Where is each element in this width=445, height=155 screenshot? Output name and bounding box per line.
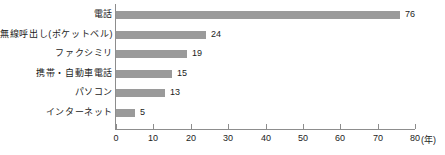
x-axis-unit-label: (年) [421, 133, 436, 146]
x-tick-label: 20 [186, 133, 196, 143]
bar [116, 50, 187, 58]
value-label: 24 [211, 25, 221, 44]
x-tick-label: 40 [261, 133, 271, 143]
chart-row: インターネット5 [0, 103, 445, 122]
x-tick-mark [378, 124, 379, 129]
x-tick-label: 80 [410, 133, 420, 143]
x-tick-label: 60 [335, 133, 345, 143]
category-label: 無線呼出し(ポケットベル) [0, 25, 113, 44]
y-axis-line [115, 4, 116, 129]
x-tick-mark [303, 124, 304, 129]
x-tick-label: 30 [223, 133, 233, 143]
category-label: インターネット [46, 103, 113, 122]
chart-row: 電話76 [0, 5, 445, 24]
bar [116, 109, 135, 117]
value-label: 15 [177, 64, 187, 83]
bar [116, 31, 206, 39]
chart-row: パソコン13 [0, 83, 445, 102]
category-label: ファクシミリ [55, 44, 113, 63]
x-tick-mark [153, 124, 154, 129]
bar [116, 89, 165, 97]
chart-row: ファクシミリ19 [0, 44, 445, 63]
x-tick-mark [228, 124, 229, 129]
value-label: 19 [192, 44, 202, 63]
x-tick-label: 70 [373, 133, 383, 143]
x-tick-mark [191, 124, 192, 129]
category-label: 携帯・自動車電話 [36, 64, 113, 83]
x-tick-label: 10 [148, 133, 158, 143]
category-label: 電話 [94, 5, 113, 24]
value-label: 76 [405, 5, 415, 24]
bar [116, 70, 172, 78]
bar [116, 11, 400, 19]
chart-row: 無線呼出し(ポケットベル)24 [0, 25, 445, 44]
value-label: 13 [170, 83, 180, 102]
value-label: 5 [140, 103, 145, 122]
category-label: パソコン [75, 83, 113, 102]
x-tick-mark [340, 124, 341, 129]
chart-row: 携帯・自動車電話15 [0, 64, 445, 83]
x-tick-mark [415, 124, 416, 129]
x-tick-mark [116, 124, 117, 129]
x-axis-line [115, 129, 415, 130]
x-tick-label: 0 [113, 133, 118, 143]
x-tick-mark [266, 124, 267, 129]
bar-chart: 電話76無線呼出し(ポケットベル)24ファクシミリ19携帯・自動車電話15パソコ… [0, 0, 445, 155]
x-tick-label: 50 [298, 133, 308, 143]
